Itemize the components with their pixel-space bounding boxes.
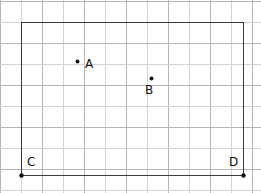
- figure-canvas: A B C D: [0, 0, 261, 193]
- point-label-b: B: [145, 84, 153, 96]
- point-label-a: A: [85, 58, 93, 70]
- rectangle-ABCD: [22, 23, 244, 176]
- point-dot-c: [19, 173, 23, 177]
- point-dot-d: [241, 173, 245, 177]
- point-label-c: C: [27, 156, 35, 168]
- shape-layer: [0, 0, 261, 193]
- point-dot-b: [150, 77, 154, 81]
- point-dot-a: [76, 60, 80, 64]
- point-label-d: D: [229, 156, 238, 168]
